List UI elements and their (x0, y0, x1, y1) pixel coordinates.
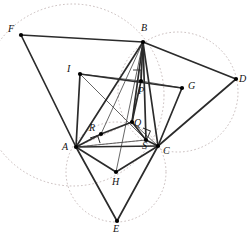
point-label-h: H (112, 177, 119, 187)
geometry-canvas (0, 0, 249, 239)
point-label-s: S (142, 141, 147, 151)
vertex-dot-c (156, 144, 160, 148)
vertex-dot-f (19, 33, 23, 37)
F-A (21, 35, 76, 147)
vertex-dot-g (180, 86, 184, 90)
G-C (158, 88, 182, 146)
B-D (143, 42, 236, 79)
point-label-q: Q (134, 118, 141, 128)
point-label-i: I (67, 64, 70, 74)
vertex-dot-i (78, 72, 82, 76)
point-label-c: C (163, 146, 170, 156)
point-label-g: G (188, 81, 195, 91)
F-B (21, 35, 143, 42)
vertex-dot-d (234, 77, 238, 81)
E-C (117, 146, 158, 221)
B-H (116, 42, 143, 172)
point-label-p: P (138, 86, 144, 96)
I-G (80, 74, 182, 88)
vertex-dot-p (139, 79, 143, 83)
vertex-dot-h (114, 170, 118, 174)
point-label-a: A (62, 142, 68, 152)
point-label-e: E (113, 224, 119, 234)
vertex-dot-b (141, 40, 145, 44)
point-label-r: R (89, 123, 95, 133)
A-E (76, 147, 117, 221)
vertex-dot-a (74, 145, 78, 149)
point-label-b: B (141, 23, 147, 33)
thick-segments-group (21, 35, 236, 221)
vertex-dots-group (19, 33, 238, 223)
point-label-d: D (239, 74, 246, 84)
point-label-f: F (8, 24, 14, 34)
D-C (158, 79, 236, 146)
vertex-dot-r (99, 132, 103, 136)
geometry-figure: FBDIGPQRSACHE (0, 0, 249, 239)
I-A (76, 74, 80, 147)
